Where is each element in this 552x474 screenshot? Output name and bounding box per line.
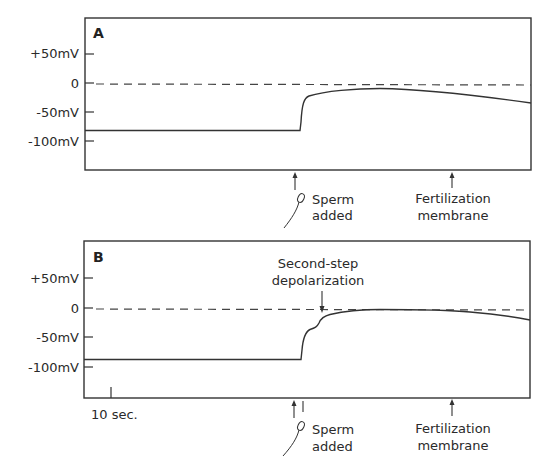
membrane-potential-trace [85, 89, 531, 131]
fertilization-label: Fertilization [415, 191, 491, 206]
arrow-head [293, 172, 298, 178]
sperm-icon [284, 193, 306, 228]
panel-a: A +50mV 0 -50mV -100mV Sperm added Ferti… [28, 18, 531, 228]
time-scale-label: 10 sec. [91, 407, 138, 422]
y-label-plus50: +50mV [30, 46, 79, 61]
sperm-icon [283, 421, 306, 456]
panel-b-letter: B [93, 249, 104, 265]
second-step-label: Second-step [278, 256, 359, 271]
zero-reference-line [96, 309, 530, 310]
added-label: added [312, 439, 353, 454]
added-label: added [312, 208, 353, 223]
y-label-minus100: -100mV [28, 360, 79, 375]
figure: A +50mV 0 -50mV -100mV Sperm added Ferti… [0, 0, 552, 474]
y-label-minus50: -50mV [36, 105, 79, 120]
panel-a-letter: A [93, 25, 104, 41]
y-label-zero: 0 [71, 76, 79, 91]
y-label-zero: 0 [71, 301, 79, 316]
sperm-label: Sperm [312, 422, 354, 437]
panel-b: B +50mV 0 -50mV -100mV Second-step depol… [28, 241, 530, 456]
membrane-potential-trace [84, 310, 530, 360]
depolarization-label: depolarization [272, 273, 365, 288]
sperm-label: Sperm [312, 192, 354, 207]
membrane-label: membrane [417, 438, 488, 453]
y-label-plus50: +50mV [30, 271, 79, 286]
membrane-label: membrane [417, 208, 488, 223]
y-label-minus100: -100mV [28, 134, 79, 149]
y-label-minus50: -50mV [36, 330, 79, 345]
zero-reference-line [96, 84, 531, 85]
fertilization-label: Fertilization [415, 421, 491, 436]
arrow-head [292, 400, 297, 406]
arrow-head [450, 399, 455, 405]
arrow-head [450, 172, 455, 178]
